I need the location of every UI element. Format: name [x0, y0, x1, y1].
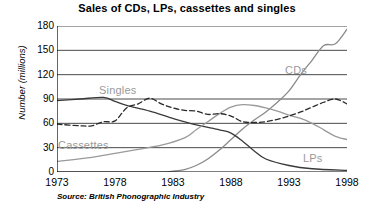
x-tick-1998: 1998 [325, 176, 369, 188]
y-tick-30: 30 [24, 143, 54, 153]
y-tick-150: 150 [24, 45, 54, 55]
chart-figure: Sales of CDs, LPs, cassettes and singles… [0, 0, 374, 208]
y-tick-180: 180 [24, 21, 54, 31]
x-tick-1983: 1983 [151, 176, 195, 188]
chart-title: Sales of CDs, LPs, cassettes and singles [0, 1, 374, 15]
y-tick-120: 120 [24, 70, 54, 80]
x-tick-1978: 1978 [93, 176, 137, 188]
series-line-singles [57, 98, 347, 126]
series-label-singles: Singles [99, 84, 136, 96]
y-tick-90: 90 [24, 94, 54, 104]
series-label-lps: LPs [303, 152, 323, 164]
source-note: Source: British Phonographic Industry [57, 192, 204, 201]
x-axis-tick-labels: 197319781983198819931998 [0, 176, 374, 190]
x-tick-1988: 1988 [209, 176, 253, 188]
y-tick-60: 60 [24, 118, 54, 128]
x-tick-1973: 1973 [35, 176, 79, 188]
series-label-cassettes: Cassettes [58, 139, 109, 151]
series-label-cds: CDs [285, 64, 307, 76]
x-tick-1993: 1993 [267, 176, 311, 188]
